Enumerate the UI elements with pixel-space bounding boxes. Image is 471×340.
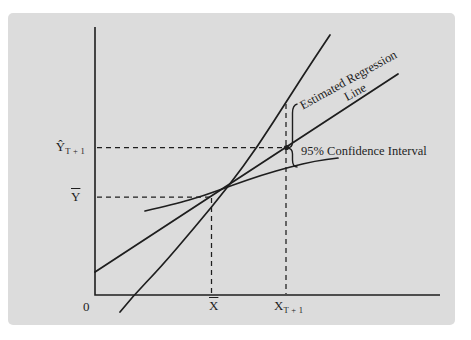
y-hat-symbol: Ŷ	[56, 139, 65, 154]
y-forecast-subscript: T + 1	[65, 146, 85, 156]
x-symbol: X	[274, 298, 283, 313]
x-axis-mean-label: X	[209, 298, 218, 313]
upper-confidence-band-curve	[120, 35, 330, 312]
x-forecast-subscript: T + 1	[283, 305, 303, 315]
x-bar-symbol: X	[209, 298, 218, 313]
confidence-brace	[287, 104, 298, 167]
estimated-regression-line-curve	[95, 74, 398, 272]
y-bar-symbol: Y	[71, 189, 80, 204]
confidence-interval-label: 95% Confidence Interval	[301, 144, 427, 159]
y-axis-forecast-label: ŶT + 1	[48, 139, 85, 159]
x-axis-forecast-label: XT + 1	[274, 298, 303, 318]
origin-label: 0	[83, 299, 90, 314]
lower-confidence-band-curve	[145, 158, 338, 211]
y-axis-mean-label: Y	[71, 189, 80, 204]
